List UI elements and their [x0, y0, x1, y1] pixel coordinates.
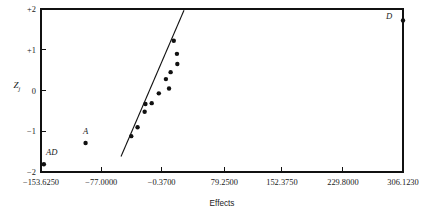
- data-point: [167, 86, 171, 90]
- data-point-label: AD: [45, 147, 58, 157]
- data-point: [175, 52, 179, 56]
- data-point: [42, 162, 46, 166]
- plot-canvas: −153.6250−77.0000−0.370079.2500152.37502…: [0, 0, 429, 217]
- data-point: [172, 39, 176, 43]
- data-point: [143, 102, 147, 106]
- data-point: [168, 70, 172, 74]
- y-axis-tick-label: +1: [27, 46, 36, 55]
- y-axis-tick-label: −2: [27, 168, 36, 177]
- x-axis-tick-label: 229.8000: [327, 178, 358, 187]
- y-axis-tick-label: −1: [27, 127, 36, 136]
- y-axis-tick-label: 0: [32, 87, 36, 96]
- data-point: [175, 62, 179, 66]
- data-point: [164, 77, 168, 81]
- y-axis-title-subscript: j: [18, 85, 21, 92]
- data-point: [83, 141, 87, 145]
- x-axis-tick-label: −77.0000: [85, 178, 117, 187]
- x-axis-tick-label: 306.1230: [387, 178, 418, 187]
- data-point: [129, 134, 133, 138]
- data-point-label: A: [82, 126, 89, 136]
- x-axis-tick-label: 152.3750: [266, 178, 297, 187]
- data-point: [401, 18, 405, 22]
- y-axis-title: Zj: [14, 80, 21, 92]
- plot-frame: [41, 9, 403, 172]
- data-point: [135, 125, 139, 129]
- data-point: [142, 109, 146, 113]
- x-axis-tick-label: −153.6250: [23, 178, 59, 187]
- x-axis-tick-label: 79.2500: [211, 178, 238, 187]
- x-axis-title: Effects: [210, 199, 235, 208]
- x-axis-tick-label: −0.3700: [148, 178, 176, 187]
- data-point: [157, 91, 161, 95]
- y-axis-tick-label: +2: [27, 5, 36, 14]
- data-point: [150, 101, 154, 105]
- data-point-label: D: [385, 11, 393, 21]
- normal-probability-plot-figure: −153.6250−77.0000−0.370079.2500152.37502…: [0, 0, 429, 217]
